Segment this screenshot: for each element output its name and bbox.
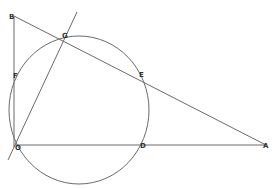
label-B: B (9, 13, 14, 21)
diagram-svg: B G F O E D A (0, 0, 274, 189)
label-F: F (13, 72, 18, 80)
circle (9, 36, 149, 184)
segment-BA (14, 16, 266, 145)
label-D: D (140, 142, 146, 150)
label-O: O (15, 144, 21, 152)
label-A: A (263, 142, 269, 150)
geometry-diagram: B G F O E D A (0, 0, 274, 189)
label-G: G (62, 32, 68, 40)
label-E: E (139, 71, 144, 79)
